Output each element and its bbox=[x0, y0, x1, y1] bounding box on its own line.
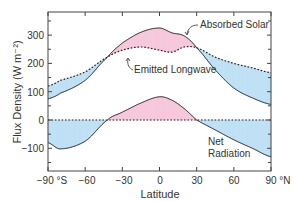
y-tick-200: 200 bbox=[27, 58, 44, 69]
y-tick-300: 300 bbox=[27, 30, 44, 41]
absorbed-solar-label: Absorbed Solar bbox=[200, 19, 270, 30]
x-tick-neg60: −60 bbox=[79, 175, 96, 186]
emitted-longwave-pointer bbox=[128, 59, 133, 70]
radiation-balance-chart: 300 200 100 0 −100 −90 °S −60 −30 0 30 6… bbox=[0, 0, 295, 202]
x-tick-30: 30 bbox=[191, 175, 203, 186]
surplus-deficit-fills bbox=[48, 28, 271, 157]
x-tick-0: 0 bbox=[157, 175, 163, 186]
y-axis-label: Flux Density (W m⁻²) bbox=[11, 40, 23, 143]
net-radiation-label-line2: Radiation bbox=[208, 148, 250, 159]
x-tick-90: 90 °N bbox=[265, 175, 290, 186]
emitted-longwave-label: Emitted Longwave bbox=[134, 64, 217, 75]
x-tick-neg30: −30 bbox=[116, 175, 133, 186]
x-tick-60: 60 bbox=[228, 175, 240, 186]
x-tick-neg90: −90 °S bbox=[37, 175, 68, 186]
y-tick-100: 100 bbox=[27, 87, 44, 98]
y-tick-neg100: −100 bbox=[21, 143, 44, 154]
x-axis-label: Latitude bbox=[140, 188, 179, 200]
absorbed-solar-pointer bbox=[187, 25, 198, 34]
net-radiation-label-line1: Net bbox=[208, 136, 224, 147]
y-tick-0: 0 bbox=[38, 115, 44, 126]
